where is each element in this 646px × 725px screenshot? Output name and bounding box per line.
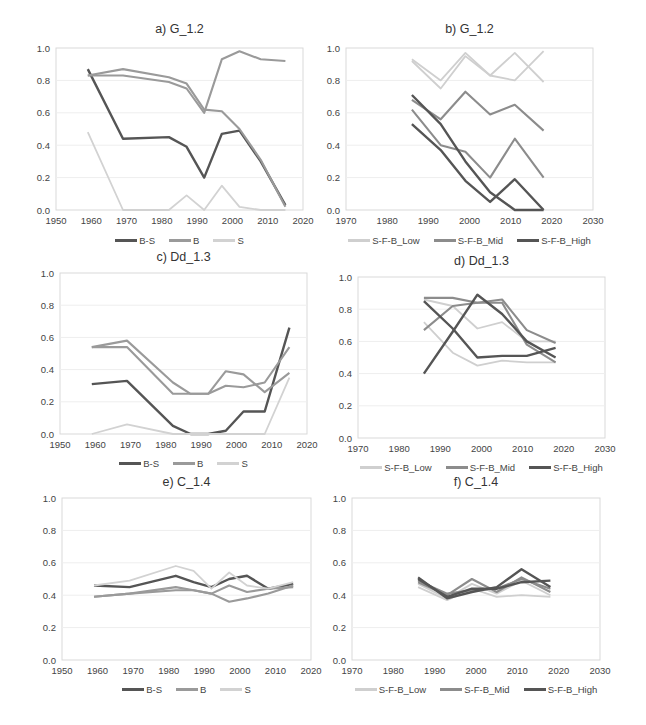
chart-legend: S-F-B_LowS-F-B_MidS-F-B_High xyxy=(355,684,598,695)
y-tick-label: 0.8 xyxy=(333,525,346,536)
legend-label: S-F-B_Low xyxy=(379,684,427,695)
legend-swatch xyxy=(524,688,546,691)
legend-item: S-F-B_High xyxy=(524,684,598,695)
legend-swatch xyxy=(440,688,462,691)
y-tick-label: 0.0 xyxy=(333,655,346,666)
x-tick-label: 2020 xyxy=(548,665,569,676)
legend-label: S-F-B_Mid xyxy=(464,684,509,695)
y-tick-label: 0.2 xyxy=(333,622,346,633)
x-tick-label: 1990 xyxy=(424,665,445,676)
plot-frame xyxy=(352,498,600,660)
y-tick-label: 0.6 xyxy=(333,557,346,568)
legend-label: S-F-B_High xyxy=(548,684,598,695)
y-tick-label: 0.4 xyxy=(333,590,346,601)
y-tick-label: 1.0 xyxy=(333,493,346,504)
x-tick-label: 1980 xyxy=(383,665,404,676)
x-tick-label: 2030 xyxy=(589,665,610,676)
legend-item: S-F-B_Low xyxy=(355,684,427,695)
chart-plot-f: 0.00.20.40.60.81.01970198019902000201020… xyxy=(0,0,646,725)
legend-item: S-F-B_Mid xyxy=(440,684,509,695)
x-tick-label: 2010 xyxy=(507,665,528,676)
legend-swatch xyxy=(355,688,377,691)
x-tick-label: 2000 xyxy=(465,665,486,676)
x-tick-label: 1970 xyxy=(341,665,362,676)
